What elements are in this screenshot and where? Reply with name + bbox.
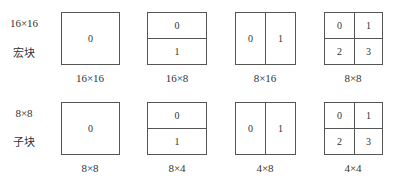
block-0: 0 (236, 103, 265, 154)
block-2: 2 (325, 129, 354, 154)
caption-16x8: 16×8 (142, 72, 212, 84)
block-1: 1 (355, 13, 382, 38)
row1-type-label: 宏块 (4, 44, 44, 60)
row2-size-label: 8×8 (4, 107, 44, 119)
partition-4x8: 0 1 (235, 102, 296, 155)
block-0: 0 (62, 103, 119, 154)
caption-8x8: 8×8 (318, 72, 388, 84)
block-0: 0 (325, 103, 354, 128)
block-3: 3 (355, 39, 382, 64)
block-0: 0 (62, 13, 119, 64)
partition-8x8-sub: 0 (61, 102, 120, 155)
partition-8x4: 0 1 (147, 102, 207, 155)
block-0: 0 (236, 13, 265, 64)
block-1: 1 (355, 103, 382, 128)
row1-size-label: 16×16 (4, 17, 44, 29)
caption-8x8-sub: 8×8 (55, 162, 125, 174)
partition-8x16: 0 1 (235, 12, 296, 65)
partition-16x16: 0 (61, 12, 120, 65)
caption-4x8: 4×8 (230, 162, 300, 174)
block-0: 0 (325, 13, 354, 38)
caption-8x4: 8×4 (142, 162, 212, 174)
caption-8x16: 8×16 (230, 72, 300, 84)
partition-16x8: 0 1 (147, 12, 207, 65)
row2-type-label: 子块 (4, 133, 44, 149)
block-1: 1 (266, 13, 295, 64)
block-2: 2 (325, 39, 354, 64)
block-1: 1 (148, 39, 206, 64)
partition-4x4: 0 1 2 3 (324, 102, 383, 155)
caption-16x16: 16×16 (55, 72, 125, 84)
partition-8x8: 0 1 2 3 (324, 12, 383, 65)
block-0: 0 (148, 13, 206, 38)
block-3: 3 (355, 129, 382, 154)
caption-4x4: 4×4 (318, 162, 388, 174)
block-1: 1 (148, 129, 206, 154)
block-1: 1 (266, 103, 295, 154)
block-0: 0 (148, 103, 206, 128)
